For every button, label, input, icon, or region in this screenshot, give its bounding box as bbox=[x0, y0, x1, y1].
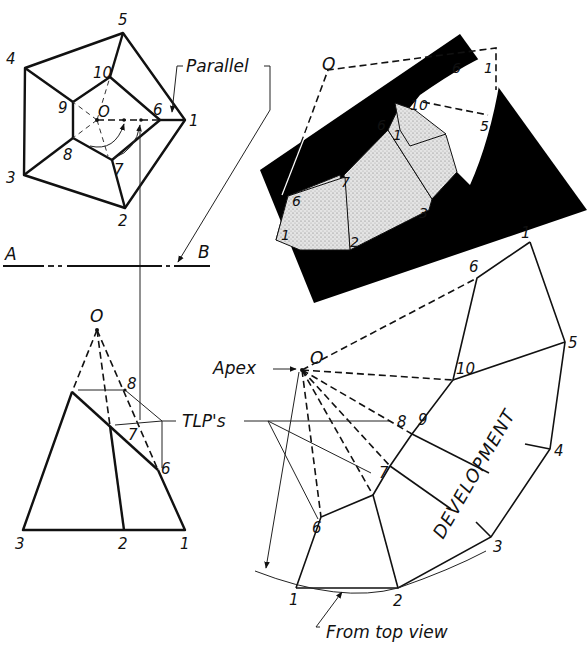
label-O: O bbox=[322, 54, 335, 74]
label-2: 2 bbox=[118, 212, 128, 230]
label-O: O bbox=[310, 348, 323, 368]
label-5: 5 bbox=[568, 334, 578, 352]
fold-line bbox=[476, 522, 491, 537]
label-5: 5 bbox=[118, 11, 128, 29]
label-6: 6 bbox=[292, 193, 301, 209]
hidden-line bbox=[72, 330, 97, 392]
edge-7-2 bbox=[110, 426, 124, 530]
label-1: 1 bbox=[281, 227, 290, 243]
label-8: 8 bbox=[397, 413, 407, 431]
base-arc bbox=[255, 551, 486, 593]
apex-point bbox=[95, 328, 99, 332]
label-7: 7 bbox=[114, 161, 124, 179]
label-3: 3 bbox=[493, 538, 503, 556]
label-8: 8 bbox=[127, 375, 137, 393]
fold-line bbox=[525, 444, 550, 449]
development-view: O Apex 1 6 10 5 9 8 4 7 6 3 1 2 DEVELOPM… bbox=[212, 224, 578, 642]
label-3: 3 bbox=[6, 169, 16, 187]
label-4: 4 bbox=[6, 50, 16, 68]
label-10: 10 bbox=[93, 64, 112, 82]
hidden-line bbox=[73, 102, 97, 120]
label-1: 1 bbox=[393, 127, 402, 143]
radial-line bbox=[302, 370, 453, 380]
label-3: 3 bbox=[15, 535, 25, 553]
label-6: 6 bbox=[377, 117, 386, 133]
label-5: 5 bbox=[480, 118, 489, 134]
label-6: 6 bbox=[153, 101, 163, 119]
folding-line-ab: A B bbox=[3, 242, 210, 266]
label-2: 2 bbox=[350, 234, 359, 250]
label-A: A bbox=[4, 244, 17, 264]
top-view: 4 5 1 2 3 6 7 8 9 10 O Parallel bbox=[6, 11, 270, 262]
fold-line bbox=[373, 495, 398, 588]
label-2: 2 bbox=[118, 535, 128, 553]
label-6: 6 bbox=[469, 258, 479, 276]
apex-callout: Apex bbox=[212, 358, 257, 378]
label-O: O bbox=[98, 103, 110, 121]
apex-point bbox=[300, 368, 304, 372]
top-view-cut-pentagon bbox=[73, 77, 160, 160]
hidden-line bbox=[73, 120, 97, 138]
parallel-arrow-to-ab bbox=[178, 66, 270, 262]
parallel-callout: Parallel bbox=[186, 56, 249, 76]
label-6: 6 bbox=[452, 60, 461, 76]
label-9: 9 bbox=[58, 99, 68, 117]
revolve-arc-8 bbox=[90, 124, 124, 147]
edge-4-9 bbox=[25, 68, 73, 102]
revolved-point bbox=[139, 118, 143, 122]
label-3: 3 bbox=[419, 205, 428, 221]
tlps-callout: TLP's bbox=[182, 411, 226, 431]
radial-line bbox=[302, 370, 390, 466]
fold-line bbox=[390, 466, 451, 509]
label-B: B bbox=[198, 242, 210, 262]
label-6: 6 bbox=[312, 519, 322, 537]
label-9: 9 bbox=[418, 411, 428, 429]
label-10: 10 bbox=[410, 97, 428, 113]
label-1: 1 bbox=[189, 112, 199, 130]
label-1: 1 bbox=[521, 224, 531, 242]
radial-line bbox=[302, 370, 412, 434]
label-4: 4 bbox=[554, 442, 564, 460]
revolve-arc-7 bbox=[114, 125, 140, 158]
radial-line bbox=[302, 370, 373, 495]
label-10: 10 bbox=[456, 360, 475, 378]
development-title: DEVELOPMENT bbox=[428, 404, 520, 542]
label-7: 7 bbox=[341, 174, 350, 190]
label-6: 6 bbox=[161, 460, 171, 478]
revolved-point bbox=[122, 118, 126, 122]
radius-arrow bbox=[266, 372, 299, 568]
development-diagram: 4 5 1 2 3 6 7 8 9 10 O Parallel A B bbox=[0, 0, 587, 651]
label-1: 1 bbox=[180, 535, 190, 553]
label-8: 8 bbox=[63, 146, 73, 164]
label-2: 2 bbox=[393, 592, 403, 610]
label-1: 1 bbox=[484, 60, 493, 76]
label-1: 1 bbox=[289, 591, 299, 609]
label-O: O bbox=[90, 306, 103, 326]
label-7: 7 bbox=[379, 464, 389, 482]
from-top-view-callout: From top view bbox=[326, 622, 448, 642]
front-view: O 8 7 6 3 2 1 TLP's bbox=[15, 306, 226, 553]
hidden-line bbox=[97, 120, 108, 156]
label-7: 7 bbox=[128, 426, 138, 444]
